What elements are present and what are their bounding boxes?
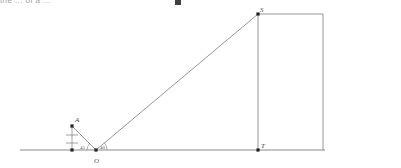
point-a-dot bbox=[70, 124, 73, 127]
point-t-dot bbox=[256, 148, 259, 151]
point-a-foot-dot bbox=[70, 148, 73, 151]
diagram-points-group bbox=[70, 12, 259, 151]
segment-o-s bbox=[96, 14, 258, 150]
point-t-label: T bbox=[261, 143, 265, 150]
diagram-segments-group bbox=[20, 14, 325, 150]
point-o-label: O bbox=[94, 158, 99, 165]
point-s-label: S bbox=[260, 7, 264, 14]
screenshot-root: the ... of a ... 4540AOST bbox=[0, 0, 401, 168]
angle-right-at-o-label: 40 bbox=[100, 145, 105, 150]
point-a-label: A bbox=[75, 117, 79, 124]
geometry-diagram-canvas bbox=[0, 0, 401, 168]
angle-left-at-o-label: 45 bbox=[80, 145, 85, 150]
point-o-dot bbox=[94, 148, 97, 151]
angle-left-at-o-arc bbox=[87, 144, 90, 150]
